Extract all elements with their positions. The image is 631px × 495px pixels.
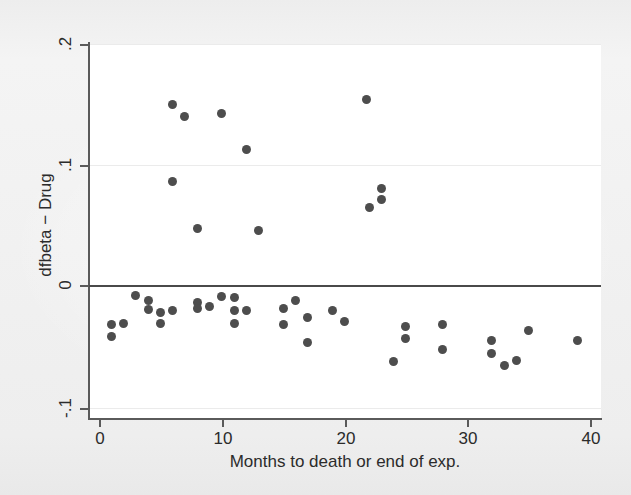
x-tick-label-40: 40 [569,429,613,449]
x-tick-label-20: 20 [324,429,368,449]
data-point [168,177,177,186]
data-point [377,184,386,193]
data-point [205,302,214,311]
data-point [131,291,140,300]
data-point [156,319,165,328]
plot-canvas [89,44,601,418]
data-point [230,306,239,315]
x-axis-title: Months to death or end of exp. [89,452,601,472]
data-point [573,336,582,345]
x-tick-mark-10 [222,418,224,427]
data-point [230,293,239,302]
data-point [193,224,202,233]
x-tick-label-0: 0 [78,429,122,449]
data-point [193,304,202,313]
y-tick-label-0: 0 [56,273,76,297]
data-point [156,308,165,317]
data-point [438,320,447,329]
data-point [144,296,153,305]
y-tick-label-0.1: .1 [56,153,76,177]
x-tick-label-10: 10 [201,429,245,449]
gridline--0.1 [89,408,601,409]
scatter-plot-figure: .2 .1 0 -.1 0 10 20 30 40 dfbeta − Drug … [0,0,631,495]
x-tick-mark-40 [590,418,592,427]
data-point [365,203,374,212]
data-point [303,313,312,322]
x-tick-label-30: 30 [446,429,490,449]
y-tick-mark-0.2 [80,44,89,46]
data-point [377,195,386,204]
data-point [279,304,288,313]
data-point [107,332,116,341]
y-tick-mark-0 [80,285,89,287]
data-point [242,145,251,154]
x-tick-mark-30 [467,418,469,427]
data-point [144,305,153,314]
data-point [487,336,496,345]
data-point [500,361,509,370]
zero-reference-line [89,285,601,287]
y-tick-mark--0.1 [80,408,89,410]
x-tick-mark-0 [99,418,101,427]
data-point [217,109,226,118]
x-tick-mark-20 [345,418,347,427]
y-tick-label--0.1: -.1 [56,396,76,420]
data-point [524,326,533,335]
data-point [107,320,116,329]
data-point [230,319,239,328]
y-tick-mark-0.1 [80,165,89,167]
y-axis-title: dfbeta − Drug [36,105,56,345]
y-tick-label-0.2: .2 [56,32,76,56]
y-axis-line [88,42,90,420]
data-point [279,320,288,329]
data-point [291,296,300,305]
gridline-0.2 [89,44,601,45]
data-point [119,319,128,328]
data-point [512,356,521,365]
gridline-0.1 [89,165,601,166]
